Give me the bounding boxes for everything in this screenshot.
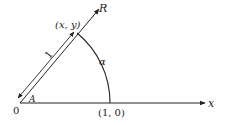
x-axis-label: x [208,97,215,110]
length-label: 1 [42,49,55,61]
unit-length-arrow [18,32,74,98]
ray-label: R [98,2,107,15]
unit-circle-diagram: R x (x, y) (1, 0) 0 A α 1 [0,0,226,125]
arc-alpha [77,33,110,103]
point-label: (x, y) [55,19,81,30]
arc-label: α [99,56,106,67]
origin-label: 0 [13,105,19,116]
angle-label: A [28,94,36,104]
unit-point-label: (1, 0) [98,107,125,118]
